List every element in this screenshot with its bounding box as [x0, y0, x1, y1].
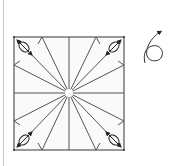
rotate-arrow-icon [144, 32, 162, 63]
origami-diagram [0, 0, 170, 166]
center-point [65, 89, 73, 97]
